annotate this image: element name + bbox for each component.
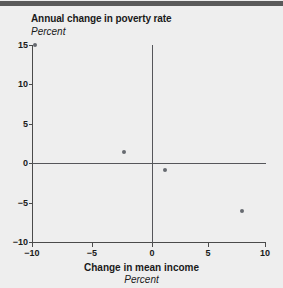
scatter-point — [240, 209, 244, 213]
y-tick-label: −5 — [18, 199, 28, 208]
x-axis-title: Change in mean income — [0, 262, 283, 273]
y-tick-label: 15 — [18, 41, 28, 50]
x-tick-mark — [265, 243, 266, 247]
x-tick-mark — [208, 243, 209, 247]
y-axis-unit-label: Percent — [31, 26, 65, 37]
scatter-point — [33, 43, 37, 47]
x-tick-label: 10 — [260, 249, 270, 258]
x-tick-label: −10 — [24, 249, 39, 258]
scatter-point — [122, 150, 126, 154]
chart-title: Annual change in poverty rate — [31, 13, 171, 24]
y-tick-label: −10 — [13, 238, 28, 247]
x-axis-unit-label: Percent — [0, 274, 283, 285]
x-tick-label: 0 — [149, 249, 154, 258]
top-divider-rule — [0, 1, 283, 6]
y-tick-label: 5 — [23, 120, 28, 129]
zero-vertical-reference-line — [152, 45, 153, 243]
y-tick-label: 0 — [23, 159, 28, 168]
x-tick-label: 5 — [205, 249, 210, 258]
y-axis-line — [32, 45, 33, 243]
x-tick-mark — [32, 243, 33, 247]
x-tick-mark — [92, 243, 93, 247]
chart-figure: Annual change in poverty rate Percent 15… — [0, 0, 283, 288]
x-axis-line — [32, 242, 266, 243]
scatter-point — [163, 168, 167, 172]
x-tick-mark — [152, 243, 153, 247]
y-axis-tick-label-group: 15 10 5 0 −5 −10 — [0, 0, 28, 288]
x-tick-label: −5 — [87, 249, 97, 258]
y-tick-label: 10 — [18, 80, 28, 89]
zero-horizontal-reference-line — [32, 163, 266, 164]
